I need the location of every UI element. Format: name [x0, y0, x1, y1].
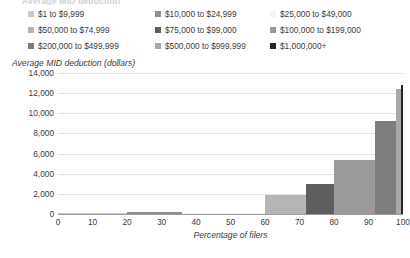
legend-item-label: $25,000 to $49,000: [280, 10, 352, 18]
chart-bar[interactable]: [306, 184, 334, 214]
gridline: [58, 73, 403, 74]
y-axis-tick-label: 4,000: [33, 169, 54, 179]
legend-item[interactable]: $10,000 to $24,999: [155, 10, 237, 18]
legend-swatch-icon: [28, 11, 34, 17]
x-axis-tick-label: 20: [122, 217, 131, 227]
legend-item-label: $500,000 to $999,999: [165, 42, 246, 50]
legend-swatch-icon: [28, 43, 34, 49]
legend-item-label: $10,000 to $24,999: [165, 10, 237, 18]
y-axis-tick-label: 8,000: [33, 128, 54, 138]
legend-item[interactable]: $1 to $9,999: [28, 10, 84, 18]
chart-bar[interactable]: [375, 121, 396, 214]
gridline: [58, 93, 403, 94]
legend-item[interactable]: $500,000 to $999,999: [155, 42, 246, 50]
legend-item-label: $75,000 to $99,000: [165, 26, 237, 34]
legend-swatch-icon: [155, 11, 161, 17]
x-axis-tick-label: 40: [191, 217, 200, 227]
legend-item[interactable]: $75,000 to $99,000: [155, 26, 237, 34]
x-axis-title: Percentage of filers: [58, 230, 403, 240]
x-axis-tick-label: 60: [260, 217, 269, 227]
chart-bar[interactable]: [127, 212, 182, 214]
y-axis-tick-label: 2,000: [33, 189, 54, 199]
cropped-chart-title: Average MID deduction: [22, 0, 120, 5]
legend-swatch-icon: [270, 43, 276, 49]
x-axis-tick-label: 50: [226, 217, 235, 227]
legend-swatch-icon: [28, 27, 34, 33]
x-axis-tick-label: 100: [396, 217, 410, 227]
x-axis-tick-label: 70: [295, 217, 304, 227]
legend-item[interactable]: $25,000 to $49,000: [270, 10, 352, 18]
legend-item[interactable]: $200,000 to $499,999: [28, 42, 119, 50]
y-axis-title: Average MID deduction (dollars): [12, 58, 135, 68]
legend-item-label: $1 to $9,999: [38, 10, 84, 18]
y-axis-tick-label: 10,000: [29, 108, 54, 118]
legend-item-label: $100,000 to $199,000: [280, 26, 361, 34]
chart-bar[interactable]: [182, 213, 265, 214]
gridline: [58, 133, 403, 134]
legend-item[interactable]: $50,000 to $74,999: [28, 26, 110, 34]
y-axis-tick-labels: 02,0004,0006,0008,00010,00012,00014,000: [0, 73, 54, 214]
chart-container: Average MID deduction (dollars) 02,0004,…: [0, 56, 407, 258]
chart-bar[interactable]: [401, 85, 403, 214]
y-axis-tick-label: 6,000: [33, 149, 54, 159]
legend-swatch-icon: [155, 27, 161, 33]
x-axis-tick-label: 0: [56, 217, 61, 227]
gridline: [58, 113, 403, 114]
x-axis-line: [58, 214, 403, 215]
legend-swatch-icon: [270, 11, 276, 17]
x-axis-tick-label: 30: [157, 217, 166, 227]
legend-item-label: $200,000 to $499,999: [38, 42, 119, 50]
y-axis-tick-label: 14,000: [29, 68, 54, 78]
chart-legend: $1 to $9,999$10,000 to $24,999$25,000 to…: [0, 8, 407, 56]
y-axis-tick-label: 12,000: [29, 88, 54, 98]
plot-area: [58, 73, 403, 214]
y-axis-tick-label: 0: [49, 209, 54, 219]
legend-item-label: $1,000,000+: [280, 42, 326, 50]
chart-bar[interactable]: [334, 160, 375, 214]
x-axis-tick-label: 90: [364, 217, 373, 227]
x-axis-tick-label: 80: [329, 217, 338, 227]
legend-item[interactable]: $1,000,000+: [270, 42, 326, 50]
legend-item-label: $50,000 to $74,999: [38, 26, 110, 34]
x-axis-tick-label: 10: [88, 217, 97, 227]
chart-bar[interactable]: [265, 195, 306, 214]
gridline: [58, 154, 403, 155]
x-axis-tick-labels: 0102030405060708090100: [58, 217, 403, 229]
chart-bar[interactable]: [58, 213, 127, 214]
legend-swatch-icon: [155, 43, 161, 49]
legend-swatch-icon: [270, 27, 276, 33]
legend-item[interactable]: $100,000 to $199,000: [270, 26, 361, 34]
